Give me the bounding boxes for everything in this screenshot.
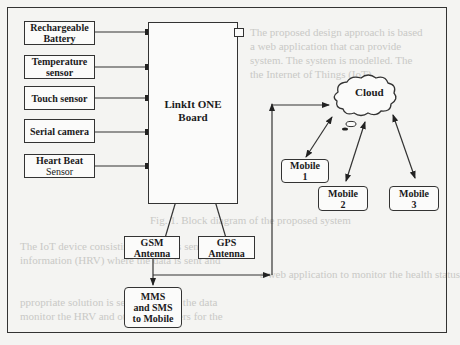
- box-label: Mobile: [290, 160, 320, 171]
- box-label: Rechargeable: [30, 22, 88, 33]
- mobile-1-box: Mobile 1: [281, 159, 329, 183]
- mobile-2-box: Mobile 2: [318, 186, 368, 211]
- mobile-3-box: Mobile 3: [389, 186, 439, 211]
- gsm-antenna-box: GSM Antenna: [124, 236, 180, 259]
- battery-connector-port: [234, 28, 244, 37]
- box-label: Temperature: [32, 56, 88, 67]
- heart-beat-sensor-box: Heart Beat Sensor: [24, 154, 95, 178]
- box-label: Sensor: [46, 166, 73, 177]
- box-label: Antenna: [208, 248, 245, 259]
- serial-camera-box: Serial camera: [24, 119, 95, 143]
- box-label: Battery: [43, 33, 75, 44]
- box-label: to Mobile: [133, 313, 174, 324]
- board-label-line1: LinkIt ONE: [148, 98, 238, 111]
- gps-antenna-box: GPS Antenna: [198, 236, 255, 259]
- rechargeable-battery-box: Rechargeable Battery: [24, 21, 95, 45]
- box-label: sensor: [46, 67, 73, 78]
- box-label: Antenna: [134, 248, 171, 259]
- box-label: GPS: [217, 237, 236, 248]
- box-label: 1: [303, 171, 308, 182]
- box-label: 3: [412, 199, 417, 210]
- temperature-sensor-box: Temperature sensor: [24, 55, 95, 79]
- box-label: Touch sensor: [31, 93, 87, 104]
- box-label: and SMS: [133, 302, 172, 313]
- box-label: Heart Beat: [36, 155, 83, 166]
- touch-sensor-box: Touch sensor: [24, 86, 95, 110]
- box-label: Mobile: [399, 188, 429, 199]
- box-label: GSM: [141, 237, 164, 248]
- board-label-line2: Board: [148, 111, 238, 124]
- cloud-label: Cloud: [355, 86, 384, 98]
- box-label: 2: [341, 199, 346, 210]
- box-label: Serial camera: [30, 126, 89, 137]
- board-label: LinkIt ONE Board: [148, 98, 238, 124]
- box-label: Mobile: [328, 188, 358, 199]
- box-label: MMS: [141, 291, 165, 302]
- mms-sms-to-mobile-box: MMS and SMS to Mobile: [124, 287, 182, 328]
